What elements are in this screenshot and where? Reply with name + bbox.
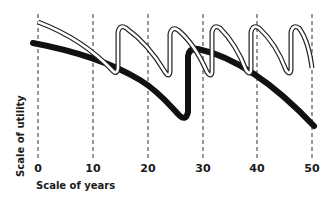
x-tick-label-20: 20 (133, 162, 163, 175)
y-axis-label: Scale of utility (15, 95, 26, 177)
thick-utility-curve (33, 43, 314, 126)
utility-over-time-chart: 0 10 20 30 40 50 Scale of years Scale of… (0, 0, 326, 202)
x-tick-label-50: 50 (297, 162, 326, 175)
x-tick-label-40: 40 (242, 162, 272, 175)
hollow-utility-curve (38, 22, 312, 75)
x-tick-label-30: 30 (188, 162, 218, 175)
x-tick-label-10: 10 (78, 162, 108, 175)
x-tick-label-0: 0 (23, 162, 53, 175)
x-axis-label: Scale of years (36, 180, 115, 191)
